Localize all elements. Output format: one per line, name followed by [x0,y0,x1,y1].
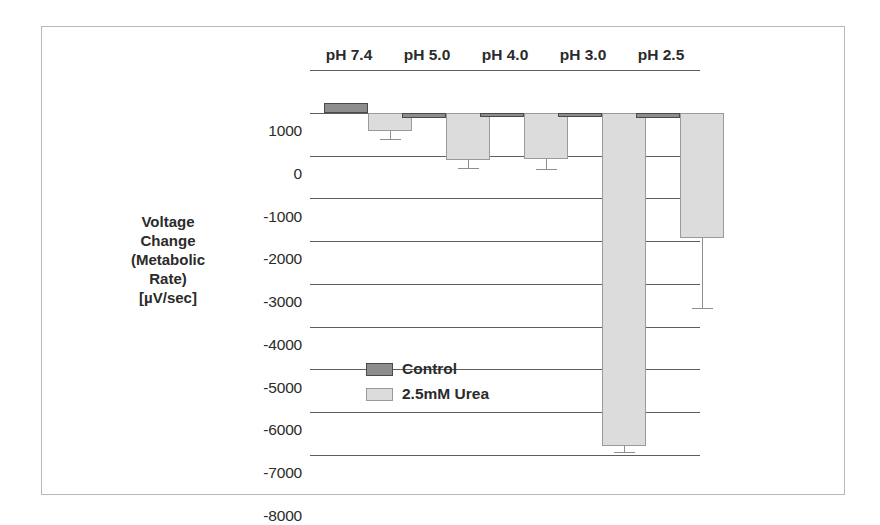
y-axis-title-line: Voltage [108,212,228,231]
chart-legend: Control 2.5mM Urea [366,358,546,408]
errorbar-urea-ph-2-5 [702,238,703,308]
y-axis-title: Voltage Change (Metabolic Rate) [µV/sec] [108,212,228,307]
y-axis-title-line: Rate) [108,269,228,288]
errorbar-cap-urea-ph-3-0 [614,452,635,453]
y-axis-title-line: (Metabolic [108,250,228,269]
errorbar-cap-urea-ph-5-0 [458,168,479,169]
y-tick-label: 1000 [232,122,302,140]
y-tick-label: -4000 [232,336,302,354]
bar-control-ph-7-4 [324,103,368,113]
y-tick-label: 0 [232,165,302,183]
y-tick-label: -3000 [232,293,302,311]
y-tick-label: -7000 [232,464,302,482]
legend-label-control: Control [402,360,457,378]
legend-item-urea: 2.5mM Urea [366,383,546,405]
y-tick-label: -2000 [232,250,302,268]
y-axis-tick-labels: 1000 0 -1000 -2000 -3000 -4000 -5000 -60… [228,60,302,470]
y-axis-title-line: Change [108,231,228,250]
errorbar-urea-ph-5-0 [468,160,469,168]
y-tick-label: -5000 [232,379,302,397]
y-tick-label: -8000 [232,507,302,525]
legend-item-control: Control [366,358,546,380]
bar-control-ph-4-0 [480,113,524,117]
legend-swatch-control-icon [366,363,393,376]
errorbar-cap-urea-ph-7-4 [380,139,401,140]
errorbar-urea-ph-7-4 [390,131,391,139]
bar-urea-ph-3-0 [602,113,646,446]
plot-area [310,60,700,470]
gridline--8000 [310,455,700,456]
errorbar-cap-urea-ph-2-5 [692,308,713,309]
y-tick-label: -1000 [232,208,302,226]
bar-urea-ph-4-0 [524,113,568,159]
gridline-1000 [310,70,700,71]
errorbar-urea-ph-4-0 [546,159,547,169]
bar-control-ph-3-0 [558,113,602,117]
y-axis-title-line: [µV/sec] [108,288,228,307]
errorbar-cap-urea-ph-4-0 [536,169,557,170]
bar-control-ph-5-0 [402,113,446,118]
y-tick-label: -6000 [232,421,302,439]
legend-swatch-urea-icon [366,388,393,401]
bar-urea-ph-5-0 [446,113,490,160]
legend-label-urea: 2.5mM Urea [402,385,489,403]
bar-control-ph-2-5 [636,113,680,118]
bar-urea-ph-2-5 [680,113,724,238]
